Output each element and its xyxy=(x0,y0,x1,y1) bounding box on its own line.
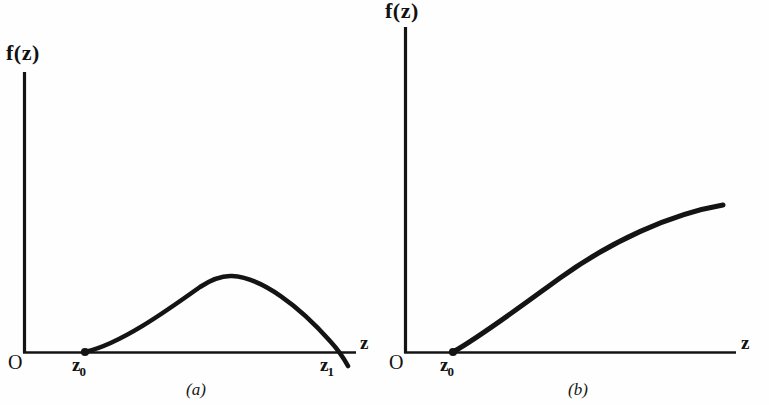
point-label-z0-a: z0 xyxy=(72,355,86,378)
origin-label-b: O xyxy=(389,352,403,372)
curve-b xyxy=(453,205,723,352)
y-axis-label-a: f(z) xyxy=(6,42,40,64)
y-axis-label-b: f(z) xyxy=(385,0,419,22)
x-axis-label-b: z xyxy=(741,333,749,352)
point-label-z0-a-sub: 0 xyxy=(79,364,86,379)
point-label-z0-b-sub: 0 xyxy=(447,364,454,379)
panel-a-plot xyxy=(0,0,385,405)
panel-caption-a: (a) xyxy=(186,380,206,400)
figure-root: f(z) z O z0 z1 (a) f(z) z O z0 (b) xyxy=(0,0,769,405)
x-axis-label-a: z xyxy=(360,333,368,352)
origin-label-a: O xyxy=(8,352,22,372)
chart-panel-b: f(z) z O z0 (b) xyxy=(385,0,769,405)
panel-caption-b: (b) xyxy=(568,380,588,400)
point-label-z1-a: z1 xyxy=(320,355,334,378)
chart-panel-a: f(z) z O z0 z1 (a) xyxy=(0,0,385,405)
panel-b-plot xyxy=(385,0,769,405)
point-label-z0-b: z0 xyxy=(440,355,454,378)
point-label-z1-a-sub: 1 xyxy=(327,364,334,379)
